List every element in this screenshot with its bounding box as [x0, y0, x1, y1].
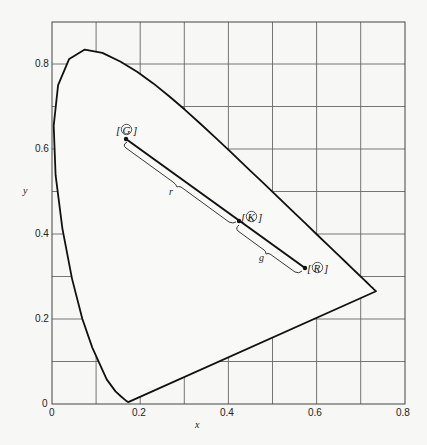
y-tick-0.2: 0.2	[35, 313, 49, 324]
svg-text:]: ]	[323, 262, 328, 274]
svg-text:[: [	[307, 262, 312, 274]
label-G: G	[123, 124, 131, 136]
svg-text:]: ]	[257, 211, 262, 223]
svg-text:[: [	[116, 124, 121, 136]
y-tick-0.6: 0.6	[35, 143, 49, 154]
label-R: R	[313, 262, 321, 274]
label-G-group: [ G ]	[116, 124, 137, 137]
label-R-group: [ R ]	[307, 262, 328, 275]
label-r: r	[169, 186, 173, 197]
x-tick-0.6: 0.6	[308, 407, 322, 418]
label-K-group: [ K ]	[241, 211, 262, 224]
x-tick-0: 0	[49, 407, 55, 418]
y-tick-0.4: 0.4	[35, 228, 49, 239]
x-tick-0.8: 0.8	[396, 407, 410, 418]
svg-text:[: [	[241, 211, 246, 223]
y-tick-0: 0	[42, 398, 48, 409]
y-tick-labels: 0 0.2 0.4 0.6 0.8	[35, 58, 49, 409]
x-axis-label: x	[194, 419, 200, 430]
chromaticity-diagram: 0 0.2 0.4 0.6 0.8 0 0.2 0.4 0.6 0.8 x y …	[0, 0, 427, 445]
x-tick-0.4: 0.4	[220, 407, 234, 418]
label-K: K	[247, 211, 256, 223]
x-tick-labels: 0 0.2 0.4 0.6 0.8	[49, 407, 410, 418]
label-g: g	[259, 252, 264, 263]
x-tick-0.2: 0.2	[132, 407, 146, 418]
point-G	[124, 137, 128, 141]
svg-text:]: ]	[132, 124, 137, 136]
y-tick-0.8: 0.8	[35, 58, 49, 69]
spectral-locus-fill	[54, 50, 376, 402]
y-axis-label: y	[22, 185, 28, 196]
